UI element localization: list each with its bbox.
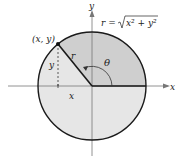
x-axis-label: x [170, 82, 175, 92]
x-axis-arrow-icon [163, 84, 170, 89]
formula-lhs: r = [101, 18, 116, 28]
point-marker [56, 42, 60, 46]
y-axis-arrow-icon [90, 10, 95, 17]
angle-label: θ [104, 57, 110, 68]
radius-label: r [71, 51, 76, 61]
polar-coordinate-diagram: y x (x, y) r θ y x r = x² + y² [0, 0, 176, 162]
horizontal-leg-label: x [69, 91, 74, 101]
formula-radicand: x² + y² [126, 18, 157, 28]
point-label: (x, y) [32, 34, 55, 44]
vertical-leg-label: y [48, 60, 55, 70]
radius-formula: r = x² + y² [101, 16, 158, 28]
y-axis-label: y [88, 1, 95, 11]
